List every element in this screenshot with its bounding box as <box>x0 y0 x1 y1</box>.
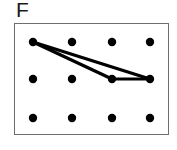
figure-label: F <box>16 0 29 20</box>
grid-dot[interactable] <box>68 75 76 83</box>
grid-dot[interactable] <box>108 75 116 83</box>
grid-dot[interactable] <box>146 38 154 46</box>
figure-container: F <box>0 0 177 150</box>
grid-dot[interactable] <box>146 114 154 122</box>
grid-dot[interactable] <box>108 114 116 122</box>
grid-dot[interactable] <box>108 38 116 46</box>
grid-dot[interactable] <box>68 114 76 122</box>
grid-dot[interactable] <box>29 75 37 83</box>
grid-dot[interactable] <box>146 75 154 83</box>
grid-dot[interactable] <box>29 114 37 122</box>
grid-dot[interactable] <box>29 38 37 46</box>
grid-dot[interactable] <box>68 38 76 46</box>
